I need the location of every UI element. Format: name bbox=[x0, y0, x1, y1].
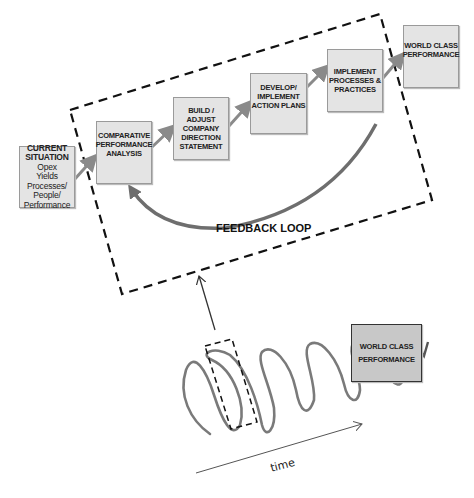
arrow-comparative-to-build bbox=[151, 130, 170, 148]
box-comparative-analysis: COMPARATIVE PERFORMANCE ANALYSIS bbox=[96, 121, 152, 184]
feedback-loop-label: FEEDBACK LOOP bbox=[216, 222, 311, 234]
develop-label: DEVELOP/ IMPLEMENT ACTION PLANS bbox=[251, 83, 306, 124]
box-build-adjust: BUILD / ADJUST COMPANY DIRECTION STATEME… bbox=[173, 97, 229, 160]
implement-label: IMPLEMENT PROCESSES & PRACTICES bbox=[328, 67, 382, 94]
world-class-top-label: WORLD CLASS PERFORMANCE bbox=[403, 41, 460, 73]
world-class-bottom-label: WORLD CLASS PERFORMANCE bbox=[350, 340, 423, 366]
box-current-situation: CURRENT SITUATION Opex Yields Processes/… bbox=[19, 146, 75, 208]
feedback-loop-arrow bbox=[132, 124, 376, 228]
arrow-develop-to-implement bbox=[306, 70, 324, 88]
box-world-class-top: WORLD CLASS PERFORMANCE bbox=[403, 25, 459, 88]
box-world-class-bottom: WORLD CLASS PERFORMANCE bbox=[351, 324, 422, 382]
box-develop-implement: DEVELOP/ IMPLEMENT ACTION PLANS bbox=[250, 73, 307, 134]
comparative-label: COMPARATIVE PERFORMANCE ANALYSIS bbox=[96, 131, 153, 174]
arrow-implement-to-worldclass bbox=[383, 58, 400, 78]
build-adjust-label: BUILD / ADJUST COMPANY DIRECTION STATEME… bbox=[174, 106, 228, 151]
arrow-build-to-develop bbox=[229, 106, 247, 126]
box-implement-processes: IMPLEMENT PROCESSES & PRACTICES bbox=[327, 49, 383, 112]
current-label-line7: Performance bbox=[24, 201, 70, 211]
spiral-to-process-arrow bbox=[199, 276, 215, 330]
